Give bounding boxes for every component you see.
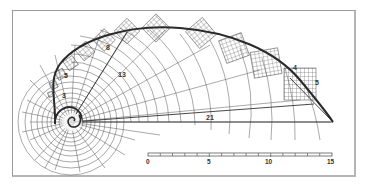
label-edge-5: 5 <box>315 79 319 86</box>
scale-tick-5: 5 <box>207 158 211 165</box>
scale-tick-15: 15 <box>327 158 335 165</box>
label-5: 5 <box>64 72 68 79</box>
spiral-diagram: 13 8 5 3 21 4 5 0 5 10 15 <box>0 0 369 190</box>
scale-tick-0: 0 <box>146 158 150 165</box>
hatched-squares <box>47 14 316 100</box>
label-edge-4: 4 <box>293 64 297 71</box>
scale-tick-10: 10 <box>265 158 273 165</box>
label-13: 13 <box>118 71 126 78</box>
label-8: 8 <box>106 44 110 51</box>
scale-bar: 0 5 10 15 <box>146 153 335 165</box>
label-3: 3 <box>62 92 66 99</box>
label-21: 21 <box>206 114 214 121</box>
